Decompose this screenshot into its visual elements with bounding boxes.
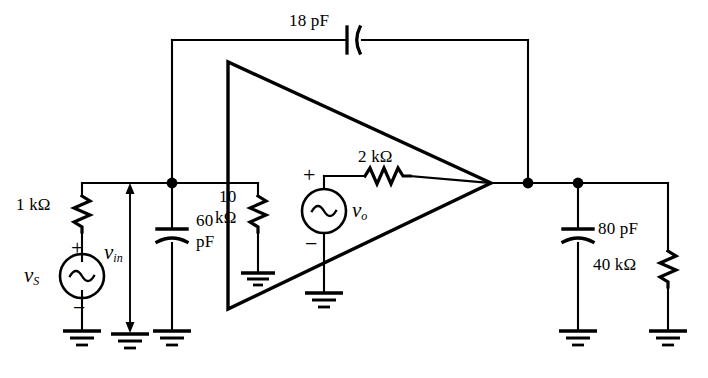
circuit-figure: 18 pF 1 kΩ 60 pF 10 kΩ 2 kΩ 80 pF 40 kΩ … <box>0 0 708 378</box>
label-capacitor-80pf: 80 pF <box>598 220 638 238</box>
polarity-minus-vs: − <box>73 297 85 319</box>
vin-arrow-symbol <box>126 183 135 333</box>
ground-output-cap <box>559 331 597 345</box>
node-input <box>167 178 178 189</box>
label-resistor-40k: 40 kΩ <box>593 256 636 274</box>
capacitor-80pf-symbol <box>563 229 593 242</box>
circuit-schematic-svg <box>0 0 708 378</box>
label-source-vs-subscript: S <box>33 274 39 288</box>
label-source-vs: vS <box>24 265 39 287</box>
output-rail-wire <box>491 183 668 330</box>
label-capacitor-18pf: 18 pF <box>289 12 329 30</box>
capacitor-18pf-symbol <box>347 27 360 53</box>
label-vin-subscript: in <box>113 251 122 265</box>
ground-source <box>63 331 101 345</box>
label-resistor-1k: 1 kΩ <box>16 196 51 214</box>
resistor-1k-symbol <box>74 196 90 232</box>
resistor-2k-symbol <box>365 168 410 184</box>
label-source-vo: vo <box>352 200 367 222</box>
label-source-vo-subscript: o <box>361 209 367 223</box>
label-resistor-10k-line2: kΩ <box>215 209 237 227</box>
label-vin-base: v <box>104 240 113 264</box>
node-output-branch <box>573 178 584 189</box>
label-source-vs-base: v <box>24 263 33 287</box>
polarity-minus-vo: − <box>305 233 317 255</box>
ground-vo <box>305 293 343 307</box>
source-vo-symbol <box>302 189 346 233</box>
feedback-branch-wire <box>172 40 528 183</box>
label-resistor-2k: 2 kΩ <box>358 148 393 166</box>
label-vin-arrow: vin <box>104 242 123 264</box>
resistor-40k-symbol <box>660 251 676 287</box>
ground-input-cap <box>153 331 191 345</box>
polarity-plus-vo: + <box>303 164 315 186</box>
label-capacitor-60pf-line2: pF <box>196 233 214 251</box>
label-source-vo-base: v <box>352 198 361 222</box>
polarity-plus-vs: + <box>71 237 83 259</box>
ground-vin-arrow <box>111 334 149 348</box>
node-output <box>523 178 534 189</box>
label-resistor-10k-line1: 10 <box>219 188 236 206</box>
ground-10k <box>241 273 275 285</box>
label-capacitor-60pf-line1: 60 <box>196 212 213 230</box>
capacitor-60pf-symbol <box>157 229 187 242</box>
ground-load <box>649 331 687 345</box>
resistor-10k-symbol <box>250 196 266 232</box>
